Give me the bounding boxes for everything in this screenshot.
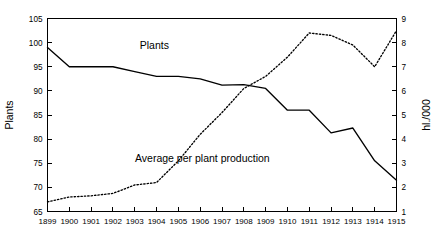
y2-tick-label: 7 (402, 63, 407, 72)
y2-tick-label: 4 (402, 135, 407, 144)
x-axis-tick-labels: 1899190019011902190319041905190619071908… (39, 217, 406, 226)
y2-tick-label: 3 (402, 159, 407, 168)
x-tick-label: 1904 (148, 217, 166, 226)
y2-tick-label: 6 (402, 87, 407, 96)
y2-tick-label: 5 (402, 111, 407, 120)
x-tick-label: 1914 (366, 217, 384, 226)
y-tick-label: 85 (33, 111, 43, 120)
y2-axis-title: hl./000 (420, 99, 432, 131)
y-tick-label: 65 (33, 208, 43, 217)
x-tick-label: 1909 (257, 217, 275, 226)
y-tick-label: 105 (29, 15, 43, 24)
x-tick-label: 1901 (82, 217, 100, 226)
x-tick-label: 1907 (213, 217, 231, 226)
chart-background (0, 0, 441, 242)
chart-canvas: 65707580859095100105 123456789 189919001… (0, 0, 441, 242)
y-axis-title: Plants (3, 100, 15, 129)
x-tick-label: 1902 (104, 217, 122, 226)
y-tick-label: 75 (33, 159, 43, 168)
series-annotation: Plants (140, 39, 169, 51)
x-tick-label: 1900 (60, 217, 78, 226)
y-tick-label: 70 (33, 183, 43, 192)
y-tick-label: 80 (33, 135, 43, 144)
y-tick-label: 90 (33, 87, 43, 96)
y2-tick-label: 2 (402, 183, 407, 192)
x-tick-label: 1899 (39, 217, 57, 226)
x-tick-label: 1910 (279, 217, 297, 226)
series-annotation: Average per plant production (135, 152, 270, 164)
x-tick-label: 1915 (388, 217, 406, 226)
y2-tick-label: 1 (402, 208, 407, 217)
right-axis-tick-labels: 123456789 (402, 15, 407, 217)
x-tick-label: 1912 (322, 217, 340, 226)
x-tick-label: 1903 (126, 217, 144, 226)
x-tick-label: 1913 (344, 217, 362, 226)
x-tick-label: 1906 (191, 217, 209, 226)
x-tick-label: 1908 (235, 217, 253, 226)
y2-tick-label: 8 (402, 39, 407, 48)
x-tick-label: 1911 (301, 217, 319, 226)
chart-container: 65707580859095100105 123456789 189919001… (0, 0, 441, 242)
y2-tick-label: 9 (402, 15, 407, 24)
y-tick-label: 100 (29, 39, 43, 48)
x-tick-label: 1905 (169, 217, 187, 226)
y-tick-label: 95 (33, 63, 43, 72)
